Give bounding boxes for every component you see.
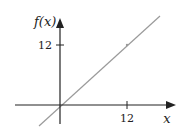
y-tick-label: 12 bbox=[38, 39, 52, 52]
x-tick-label: 12 bbox=[120, 112, 134, 125]
x-axis-arrow-icon bbox=[166, 101, 176, 109]
x-axis-label: x bbox=[163, 111, 171, 126]
chart: 12 12 x f(x) bbox=[0, 0, 180, 131]
y-axis-label: f(x) bbox=[33, 14, 56, 29]
y-axis-arrow-icon bbox=[56, 18, 64, 28]
function-line bbox=[39, 16, 160, 126]
marked-point bbox=[126, 44, 128, 46]
